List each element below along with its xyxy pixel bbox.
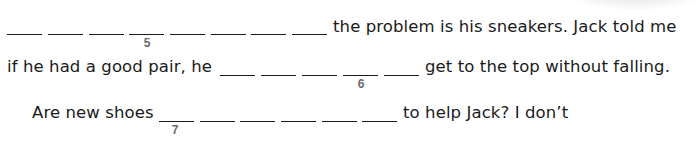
letter-blank[interactable]: [362, 121, 397, 122]
letter-blank[interactable]: [240, 121, 275, 122]
letter-blank[interactable]: [200, 121, 235, 122]
letter-blank[interactable]: [89, 34, 124, 35]
clue-number-7: 7: [157, 123, 193, 137]
sentence-text: if he had a good pair, he: [7, 57, 212, 76]
letter-blank[interactable]: [48, 34, 83, 35]
sentence-text: Are new shoes: [32, 103, 154, 122]
letter-blank-numbered[interactable]: [159, 121, 194, 122]
letter-blank[interactable]: [302, 75, 337, 76]
letter-blank[interactable]: [281, 121, 316, 122]
letter-blank[interactable]: [384, 75, 419, 76]
letter-blank[interactable]: [211, 34, 246, 35]
letter-blank[interactable]: [251, 34, 286, 35]
letter-blank-numbered[interactable]: [129, 34, 164, 35]
letter-blank[interactable]: [261, 75, 296, 76]
letter-blank[interactable]: [220, 75, 255, 76]
letter-blank[interactable]: [170, 34, 205, 35]
letter-blank-numbered[interactable]: [343, 75, 378, 76]
sentence-text: get to the top without falling.: [425, 57, 670, 76]
letter-blank[interactable]: [292, 34, 327, 35]
clue-number-6: 6: [343, 77, 379, 91]
sentence-text: to help Jack? I don’t: [403, 103, 568, 122]
letter-blank[interactable]: [322, 121, 357, 122]
sentence-text: the problem is his sneakers. Jack told m…: [333, 17, 677, 36]
clue-number-5: 5: [129, 36, 165, 50]
decorative-shadow: [560, 0, 698, 10]
letter-blank[interactable]: [7, 34, 42, 35]
